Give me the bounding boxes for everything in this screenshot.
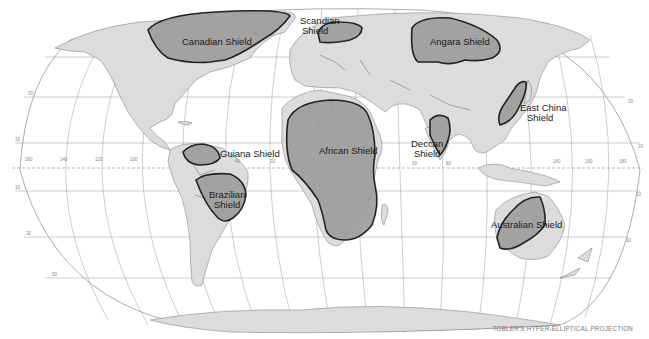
svg-text:140: 140 (553, 159, 561, 164)
svg-text:120: 120 (95, 157, 103, 162)
svg-text:30: 30 (626, 238, 632, 243)
label-brazilian-shield-2: Shield (214, 199, 240, 210)
label-angara-shield: Angara Shield (430, 36, 490, 47)
svg-text:140: 140 (60, 157, 68, 162)
svg-text:10: 10 (638, 144, 644, 149)
svg-text:10: 10 (15, 137, 21, 142)
svg-text:20: 20 (270, 159, 276, 164)
svg-text:60: 60 (412, 161, 418, 166)
svg-text:100: 100 (130, 157, 138, 162)
svg-text:160: 160 (585, 159, 593, 164)
svg-text:40: 40 (235, 159, 241, 164)
svg-text:30: 30 (26, 231, 32, 236)
label-guiana-shield: Guiana Shield (220, 148, 280, 159)
svg-text:10: 10 (15, 185, 21, 190)
svg-text:30: 30 (28, 91, 34, 96)
label-deccan-shield-2: Shield (414, 148, 440, 159)
svg-text:80: 80 (446, 161, 452, 166)
svg-text:180: 180 (619, 159, 627, 164)
svg-text:160: 160 (25, 157, 33, 162)
label-scandian-shield-2: Shield (302, 25, 328, 36)
svg-text:50: 50 (52, 272, 58, 277)
label-african-shield: African Shield (319, 145, 378, 156)
svg-text:10: 10 (636, 192, 642, 197)
label-east-china-shield-2: Shield (527, 112, 553, 123)
label-canadian-shield: Canadian Shield (182, 36, 252, 47)
svg-text:30: 30 (628, 99, 634, 104)
world-map: Canadian Shield Scandian Shield Angara S… (0, 0, 649, 339)
label-australian-shield: Australian Shield (491, 219, 562, 230)
projection-caption: TOBLER'S HYPER-ELLIPTICAL PROJECTION (493, 325, 633, 332)
